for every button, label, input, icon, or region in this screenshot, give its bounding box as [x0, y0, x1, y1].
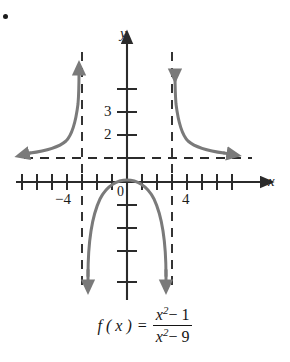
equation-paren-close: ) — [126, 317, 131, 335]
equation-numerator: x2− 1 — [153, 305, 193, 325]
denominator-base: x — [156, 328, 163, 345]
numerator-rest: − 1 — [168, 306, 189, 323]
y-axis-label: y — [120, 26, 127, 41]
x-tick-label-4: 4 — [182, 192, 190, 207]
x-axis-label: x — [268, 174, 275, 189]
curve-right-branch — [175, 72, 224, 153]
y-axis — [117, 42, 137, 300]
math-graph-figure: y x 3 2 −4 4 0 f(x) = x2− 1 x2− 9 — [0, 0, 290, 362]
curve-left-branch-tail — [26, 153, 30, 154]
curve-left-branch — [30, 72, 79, 153]
function-equation-caption: f(x) = x2− 1 x2− 9 — [0, 305, 290, 346]
equation-denominator: x2− 9 — [153, 325, 193, 346]
equation-fraction: x2− 1 x2− 9 — [153, 305, 193, 346]
equation-paren-open: ( — [106, 317, 111, 335]
numerator-base: x — [156, 306, 163, 323]
equation-function-name: f — [98, 317, 102, 335]
x-tick-label-negative-4: −4 — [55, 192, 71, 207]
equation-argument: x — [115, 317, 122, 335]
y-tick-label-2: 2 — [104, 127, 112, 142]
y-tick-label-3: 3 — [104, 104, 112, 119]
curve-right-branch-tail — [224, 153, 230, 154]
denominator-rest: − 9 — [168, 328, 189, 345]
equation-equals-sign: = — [136, 317, 149, 335]
origin-label: 0 — [117, 185, 124, 199]
